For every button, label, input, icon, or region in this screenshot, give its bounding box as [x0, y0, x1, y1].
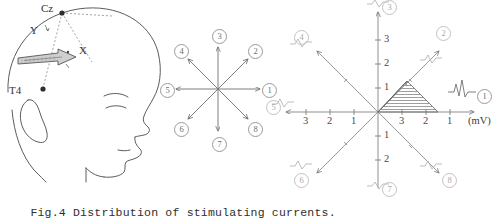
electrode-point-t4: [40, 86, 45, 91]
polar-axis-label-1: 1: [477, 89, 492, 104]
polar-distribution-chart: 1 2 3 1 2 3 1 2 3 1 2 (mV) 1 2 3 4 5 6 7…: [272, 0, 495, 190]
head-schematic-panel: Cz T4 X Y: [0, 0, 168, 182]
current-direction-arrow: [18, 49, 76, 68]
label-t4: T4: [9, 84, 21, 96]
tick-right-2: 2: [423, 115, 428, 126]
label-axis-y: Y: [30, 24, 38, 36]
polar-axis-label-4: 4: [294, 30, 309, 45]
tick-up-1: 1: [384, 81, 389, 92]
star-direction-8: 8: [248, 122, 263, 137]
star-direction-2: 2: [248, 44, 263, 59]
tick-left-1: 1: [351, 115, 356, 126]
eight-direction-star-panel: 1 2 3 4 5 6 7 8: [160, 14, 278, 164]
electrode-point-cz: [59, 10, 64, 15]
head-schematic-drawing: [0, 0, 168, 182]
star-direction-3: 3: [212, 29, 227, 44]
waveform-axis-6: [290, 161, 312, 169]
tick-right-1: 1: [447, 115, 452, 126]
polar-axis-label-5: 5: [266, 100, 281, 115]
tick-down-2: 2: [384, 153, 389, 164]
star-direction-5: 5: [160, 83, 175, 98]
tick-up-2: 2: [384, 57, 389, 68]
label-cz: Cz: [41, 2, 53, 14]
polar-axis-label-2: 2: [436, 26, 451, 41]
figure-4: Cz T4 X Y: [0, 0, 495, 220]
star-direction-4: 4: [174, 44, 189, 59]
polar-axis-label-8: 8: [442, 173, 457, 188]
figure-caption: Fig.4 Distribution of stimulating curren…: [2, 192, 494, 220]
waveform-axis-1: [448, 80, 476, 97]
polar-axis-label-6: 6: [294, 173, 309, 188]
polar-axis-label-3: 3: [382, 0, 397, 15]
label-axis-x: X: [79, 44, 87, 56]
caption-line-1: Fig.4 Distribution of stimulating curren…: [30, 206, 335, 219]
tick-left-2: 2: [327, 115, 332, 126]
tick-up-3: 3: [384, 33, 389, 44]
star-direction-6: 6: [174, 122, 189, 137]
tick-left-3: 3: [303, 115, 308, 126]
star-direction-7: 7: [212, 137, 227, 152]
axis-unit-label: (mV): [468, 115, 491, 126]
tick-right-3: 3: [399, 115, 404, 126]
tick-down-1: 1: [384, 129, 389, 140]
